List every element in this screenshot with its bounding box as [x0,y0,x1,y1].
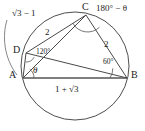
geometry-figure: A B C D √3 − 1 2 2 1 + √3 θ 120° 60° 180… [0,0,145,131]
segment-DC [26,15,86,53]
vertex-label-C: C [82,2,89,12]
vertex-label-A: A [9,70,16,80]
length-label-AD: √3 − 1 [12,9,36,18]
angle-arc-D [26,57,34,62]
length-label-DC: 2 [45,28,50,37]
angle-label-D: 120° [36,48,50,56]
vertex-label-D: D [13,45,20,55]
angle-arc-B [110,68,113,78]
angle-label-A: θ [33,66,37,75]
length-label-AB: 1 + √3 [55,85,79,94]
angle-label-C: 180° − θ [96,4,127,13]
segment-AD [23,53,26,78]
vertex-label-B: B [131,70,138,80]
figure-canvas [0,0,145,131]
length-label-CB: 2 [104,40,109,49]
angle-label-B: 60° [103,58,114,66]
